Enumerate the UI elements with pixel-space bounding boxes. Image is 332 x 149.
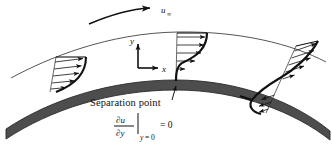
y-axis-label: y <box>129 36 134 46</box>
velocity-arrow <box>55 59 83 63</box>
coordinate-axes: y x <box>129 36 166 74</box>
velocity-arrow <box>54 66 82 69</box>
wall-shear-equation: ∂u ∂y y = 0 = 0 <box>114 113 173 142</box>
separation-point-label: Separation point <box>90 97 161 108</box>
equation-subscript-var: y <box>139 133 144 142</box>
freestream-label: u ∞ <box>161 5 171 17</box>
equation-numerator: ∂u <box>116 115 125 125</box>
velocity-arrow <box>53 73 79 76</box>
figure-canvas: u ∞ <box>0 0 332 149</box>
equation-subscript-value: = 0 <box>145 133 155 142</box>
freestream-symbol: u <box>161 5 166 15</box>
x-axis-label: x <box>161 64 166 74</box>
freestream-subscript: ∞ <box>167 11 171 17</box>
velocity-arrow <box>52 81 75 83</box>
velocity-profile-separation <box>176 33 207 81</box>
equation-result: = 0 <box>160 120 173 130</box>
boundary-layer-separation-figure: u ∞ <box>0 0 332 149</box>
freestream-arrow <box>89 8 150 24</box>
profile-envelope-left <box>56 57 86 92</box>
equation-denominator: ∂y <box>116 128 124 138</box>
velocity-profile-attached <box>50 57 86 92</box>
boundary-layer-edge <box>11 32 326 78</box>
profile-envelope-center <box>176 33 207 81</box>
